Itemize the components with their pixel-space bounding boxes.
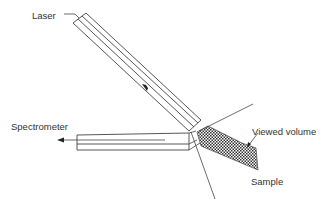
reflected-line	[199, 104, 253, 131]
label-sample: Sample	[251, 177, 283, 187]
spectrometer-tube	[77, 133, 189, 150]
laser-tube	[73, 13, 201, 131]
viewed-volume-region	[197, 126, 258, 170]
label-spectrometer: Spectrometer	[11, 122, 68, 132]
spectrometer-arrow-icon	[57, 138, 64, 143]
label-laser: Laser	[32, 11, 56, 21]
laser-leader-line	[64, 14, 79, 18]
label-viewed-volume: Viewed volume	[252, 127, 316, 137]
